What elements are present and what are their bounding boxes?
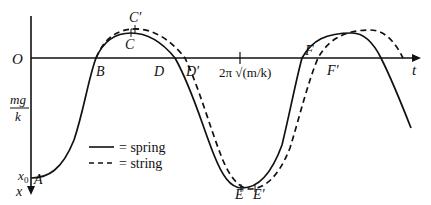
point-f-prime: F′ xyxy=(326,63,340,78)
legend-spring-label: = spring xyxy=(119,140,165,155)
legend-string-label: = string xyxy=(119,156,162,171)
x0-label: x xyxy=(17,168,24,183)
k-label: k xyxy=(15,109,21,124)
spring-string-diagram: O t x mg k x 0 2π √(m/k) A B C C′ D D′ E… xyxy=(0,0,431,205)
point-e: E xyxy=(234,187,244,202)
spring-curve xyxy=(31,33,411,188)
point-d-prime: D′ xyxy=(185,64,200,79)
mg-label: mg xyxy=(10,92,26,107)
legend: = spring = string xyxy=(89,140,165,171)
point-a: A xyxy=(33,172,43,187)
t-axis-arrow-icon xyxy=(412,54,421,62)
t-axis-label: t xyxy=(412,62,417,78)
origin-label: O xyxy=(12,51,23,67)
point-c: C xyxy=(125,37,135,52)
period-label: 2π √(m/k) xyxy=(219,65,271,80)
point-f: F xyxy=(304,43,314,58)
x-axis-arrow-icon xyxy=(27,186,35,195)
x-axis-label: x xyxy=(15,184,23,199)
point-b: B xyxy=(96,64,105,79)
x0-subscript: 0 xyxy=(24,175,29,185)
point-d: D xyxy=(153,64,164,79)
point-c-prime: C′ xyxy=(129,10,142,25)
point-e-prime: E′ xyxy=(252,187,266,202)
